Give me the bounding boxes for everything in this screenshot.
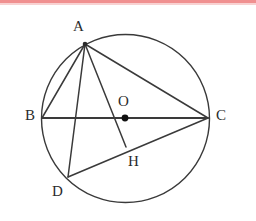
label-point-d: D [52, 184, 63, 199]
point-o-dot [122, 115, 129, 122]
label-point-h: H [128, 154, 139, 169]
segment-ab [42, 44, 85, 118]
segment-ac [85, 44, 208, 118]
segment-ad [68, 44, 85, 177]
geometry-figure: A B C D O H [0, 0, 256, 221]
label-point-b: B [25, 108, 35, 123]
point-a-dot [83, 42, 88, 47]
label-point-o: O [118, 94, 129, 109]
label-point-a: A [73, 19, 84, 34]
label-point-c: C [216, 108, 226, 123]
